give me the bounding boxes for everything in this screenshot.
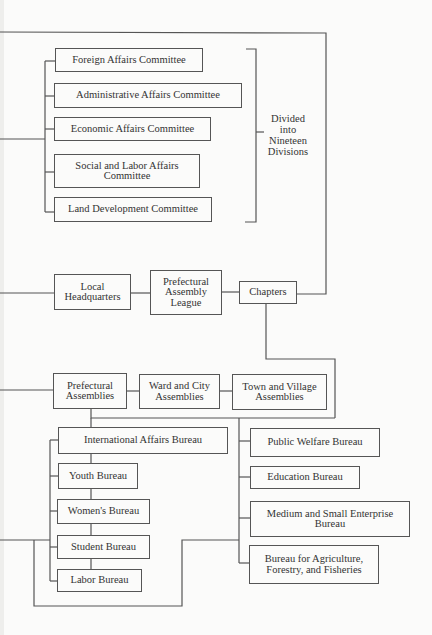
education-bureau-box: Education Bureau (250, 466, 360, 489)
student-bureau-box: Student Bureau (57, 535, 150, 559)
prefectural-assembly-league-box: Prefectural Assembly League (150, 270, 222, 315)
chapters-box: Chapters (239, 281, 297, 304)
foreign-affairs-committee-box: Foreign Affairs Committee (55, 48, 203, 72)
international-affairs-bureau-box: International Affairs Bureau (58, 427, 228, 454)
administrative-affairs-committee-box: Administrative Affairs Committee (54, 83, 242, 108)
medium-small-enterprise-bureau-box: Medium and Small Enterprise Bureau (250, 501, 410, 537)
public-welfare-bureau-box: Public Welfare Bureau (250, 428, 380, 457)
youth-bureau-box: Youth Bureau (58, 463, 138, 489)
agriculture-forestry-fisheries-bureau-box: Bureau for Agriculture, Forestry, and Fi… (249, 545, 379, 584)
prefectural-assemblies-box: Prefectural Assemblies (53, 373, 127, 409)
womens-bureau-box: Women's Bureau (57, 499, 150, 524)
ward-city-assemblies-box: Ward and City Assemblies (139, 374, 220, 409)
town-village-assemblies-box: Town and Village Assemblies (232, 374, 327, 410)
local-headquarters-box: Local Headquarters (54, 274, 131, 310)
labor-bureau-box: Labor Bureau (57, 569, 142, 592)
land-development-committee-box: Land Development Committee (54, 197, 212, 222)
economic-affairs-committee-box: Economic Affairs Committee (54, 117, 211, 141)
divisions-note: Divided into Nineteen Divisions (264, 113, 312, 157)
social-labor-affairs-committee-box: Social and Labor Affairs Committee (54, 154, 200, 188)
